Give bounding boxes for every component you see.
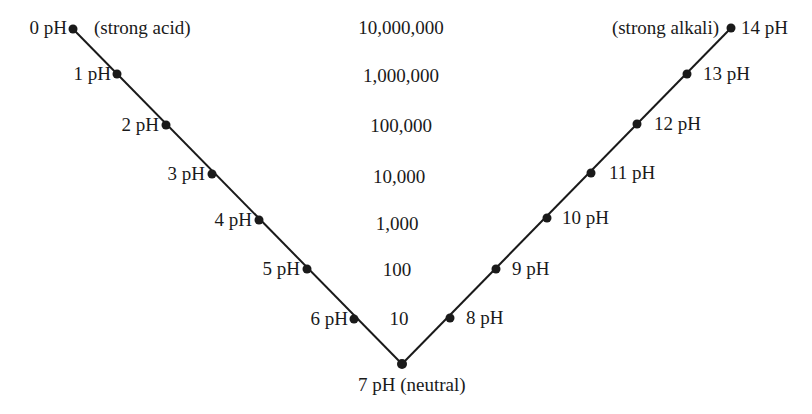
point-ph1 <box>113 70 122 79</box>
label-ph4: 4 pH <box>215 210 252 230</box>
annotation-strong-alkali: (strong alkali) <box>612 18 719 38</box>
point-ph13 <box>683 70 692 79</box>
point-ph11 <box>587 169 596 178</box>
multiplier-1000: 1,000 <box>376 214 419 234</box>
label-ph10: 10 pH <box>562 208 609 228</box>
label-ph0: 0 pH <box>30 18 67 38</box>
point-ph9 <box>492 265 501 274</box>
label-ph3: 3 pH <box>168 164 205 184</box>
annotation-strong-acid: (strong acid) <box>94 18 191 38</box>
label-ph12: 12 pH <box>654 114 701 134</box>
point-ph14 <box>727 24 736 33</box>
label-ph8: 8 pH <box>466 308 503 328</box>
point-ph3 <box>208 170 217 179</box>
point-ph6 <box>350 315 359 324</box>
acid-line <box>73 29 402 364</box>
multiplier-10000: 10,000 <box>373 167 425 187</box>
point-ph2 <box>162 121 171 130</box>
label-ph14: 14 pH <box>741 18 788 38</box>
label-ph9: 9 pH <box>512 259 549 279</box>
point-ph0 <box>69 25 78 34</box>
label-ph5: 5 pH <box>263 259 300 279</box>
label-ph2: 2 pH <box>122 115 159 135</box>
point-ph8 <box>446 314 455 323</box>
multiplier-10000000: 10,000,000 <box>358 18 444 38</box>
ph-scale-diagram <box>0 0 812 414</box>
multiplier-100: 100 <box>383 260 412 280</box>
point-ph4 <box>255 216 264 225</box>
multiplier-100000: 100,000 <box>370 116 432 136</box>
point-ph5 <box>303 265 312 274</box>
point-ph10 <box>543 214 552 223</box>
label-ph11: 11 pH <box>609 163 655 183</box>
alkali-line <box>402 28 731 364</box>
label-ph1: 1 pH <box>74 64 111 84</box>
label-ph7-neutral: 7 pH (neutral) <box>358 375 466 395</box>
label-ph13: 13 pH <box>703 64 750 84</box>
label-ph6: 6 pH <box>311 309 348 329</box>
point-ph7 <box>397 359 407 369</box>
multiplier-1000000: 1,000,000 <box>363 66 439 86</box>
multiplier-10: 10 <box>390 309 409 329</box>
point-ph12 <box>633 120 642 129</box>
